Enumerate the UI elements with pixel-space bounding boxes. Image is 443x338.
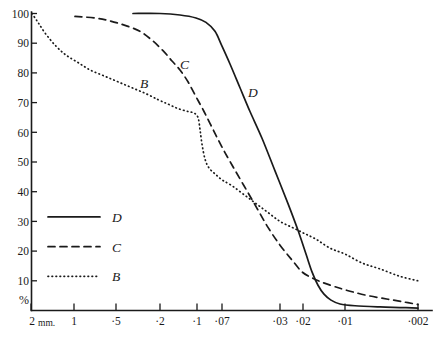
- x-axis-unit-label: mm.: [38, 318, 55, 328]
- y-tick-label: 80: [18, 67, 30, 79]
- legend-label-c: C: [112, 240, 122, 255]
- y-tick-label: 100: [12, 8, 30, 20]
- x-tick-label: ·02: [295, 315, 311, 327]
- particle-size-distribution-chart: 100908070605040302010 % 2mm.1·5·2·1·07·0…: [0, 0, 443, 338]
- y-tick-label: 70: [18, 97, 30, 109]
- x-axis-ticks: [31, 304, 418, 311]
- chart-container: 100908070605040302010 % 2mm.1·5·2·1·07·0…: [0, 0, 443, 338]
- x-tick-label: ·03: [272, 315, 288, 327]
- legend-item-c: C: [48, 240, 122, 255]
- x-tick-label: 1: [71, 315, 77, 327]
- curve-c: [75, 16, 418, 304]
- y-tick-label: 20: [18, 245, 30, 257]
- curve-label-c: C: [180, 57, 190, 72]
- x-tick-label: ·01: [337, 315, 353, 327]
- legend-item-b: B: [48, 269, 120, 284]
- curves-group: [32, 13, 418, 308]
- y-axis-group: 100908070605040302010 %: [12, 8, 37, 311]
- y-axis-ticks: [32, 14, 38, 281]
- x-tick-label: ·002: [407, 315, 428, 327]
- curve-labels-group: DCB: [140, 57, 258, 100]
- x-tick-label: ·1: [192, 315, 202, 327]
- y-tick-label: 30: [18, 216, 30, 228]
- y-tick-label: 90: [18, 37, 30, 49]
- y-tick-label: 10: [18, 275, 30, 287]
- legend-label-d: D: [111, 210, 122, 225]
- x-tick-label: 2: [29, 315, 35, 327]
- legend-item-d: D: [48, 210, 122, 225]
- x-tick-label: ·5: [111, 315, 121, 327]
- y-axis-tick-labels: 100908070605040302010: [12, 8, 30, 287]
- curve-label-d: D: [247, 85, 258, 100]
- y-tick-label: 50: [18, 156, 30, 168]
- percent-axis-label: %: [19, 293, 29, 307]
- curve-d: [133, 13, 418, 308]
- curve-label-b: B: [140, 76, 148, 91]
- x-tick-label: ·2: [155, 315, 165, 327]
- x-axis-tick-labels: 2mm.1·5·2·1·07·03·02·01·002: [29, 315, 429, 328]
- y-tick-label: 40: [18, 186, 30, 198]
- chart-legend: DCB: [48, 210, 122, 284]
- legend-label-b: B: [112, 269, 120, 284]
- y-tick-label: 60: [18, 127, 30, 139]
- x-tick-label: ·07: [214, 315, 230, 327]
